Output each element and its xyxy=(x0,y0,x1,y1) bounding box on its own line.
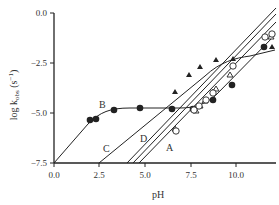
x-tick-label: 2.5 xyxy=(93,170,105,180)
x-tick-label: 10.0 xyxy=(228,170,244,180)
curve-a2 xyxy=(139,22,276,163)
x-ticks: 0.0 2.5 5.0 7.5 10.0 xyxy=(48,163,244,180)
series-d-points xyxy=(172,34,274,131)
y-tick-label: −5.0 xyxy=(31,108,48,118)
chart: 0.0 −2.5 −5.0 −7.5 0.0 2.5 5.0 7.5 10.0 … xyxy=(0,0,279,205)
y-axis-title: log kobs (s−1) xyxy=(7,70,21,121)
y-tick-label: −2.5 xyxy=(31,58,48,68)
svg-text:log kobs (s−1): log kobs (s−1) xyxy=(7,70,21,121)
x-tick-label: 7.5 xyxy=(185,170,197,180)
x-axis-title: pH xyxy=(152,189,164,200)
label-c: C xyxy=(103,143,110,154)
series-a-points xyxy=(173,31,275,134)
label-a: A xyxy=(166,142,174,153)
x-tick-label: 0.0 xyxy=(48,170,60,180)
x-tick-label: 5.0 xyxy=(139,170,151,180)
label-d: D xyxy=(140,133,147,144)
y-ticks: 0.0 −2.5 −5.0 −7.5 xyxy=(31,8,54,168)
curve-b xyxy=(54,35,275,163)
label-b: B xyxy=(99,99,106,110)
curve-a xyxy=(133,14,276,163)
fit-curves xyxy=(54,8,276,163)
y-tick-label: 0.0 xyxy=(36,8,48,18)
curve-d xyxy=(127,8,276,163)
y-tick-label: −7.5 xyxy=(31,158,48,168)
